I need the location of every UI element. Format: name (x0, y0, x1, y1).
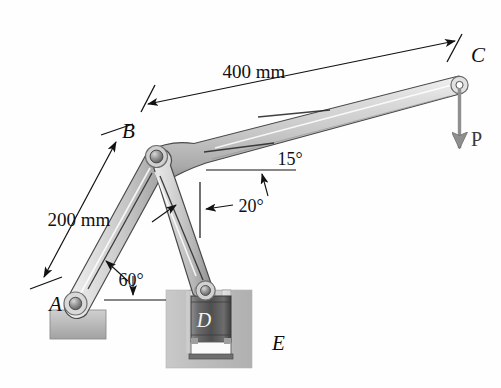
label-point-e: E (271, 331, 285, 355)
label-point-c: C (471, 43, 486, 67)
angle-15-marker (206, 170, 296, 196)
label-point-b: B (122, 119, 135, 143)
mechanism-diagram: 400 mm 200 mm 60° 20° 15° A B C D E P (0, 0, 501, 388)
dimension-200mm-label: 200 mm (48, 209, 111, 230)
pin-joint-B (146, 146, 168, 168)
angle-60-label: 60° (118, 270, 143, 290)
angle-20-marker (200, 182, 233, 238)
label-force-p: P (471, 128, 482, 150)
pin-joint-D (196, 281, 215, 300)
angle-15-label: 15° (277, 149, 302, 169)
angle-20-label: 20° (238, 196, 263, 216)
link-BC (149, 76, 466, 182)
pin-joint-A (64, 292, 87, 315)
dimension-400mm-label: 400 mm (223, 61, 286, 82)
mechanism-figure: 400 mm 200 mm 60° 20° 15° A B C D E P (0, 0, 501, 388)
label-point-d: D (196, 309, 212, 331)
label-point-a: A (47, 292, 62, 316)
